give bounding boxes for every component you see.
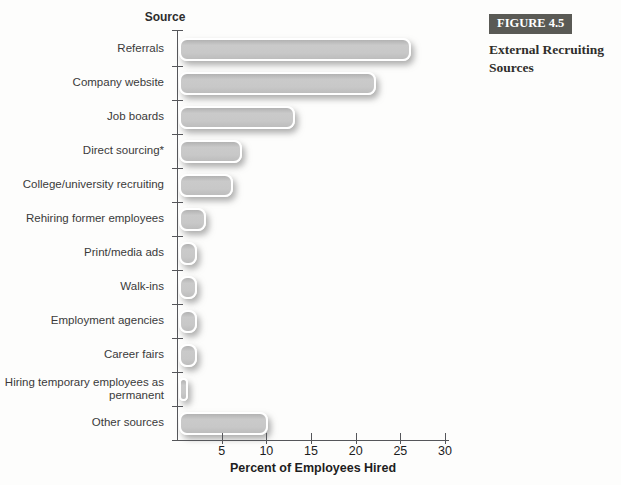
category-label: College/university recruiting: [0, 178, 171, 191]
bar: [179, 310, 197, 333]
x-tick-label: 10: [251, 444, 281, 458]
bar-row: Career fairs: [0, 338, 480, 372]
y-tick: [172, 134, 183, 135]
category-label: Referrals: [0, 42, 171, 55]
x-tick: [266, 433, 267, 444]
bar-track: [171, 236, 480, 270]
bar-row: Other sources: [0, 406, 480, 440]
bar: [179, 140, 242, 163]
category-label: Job boards: [0, 110, 171, 123]
category-label: Walk-ins: [0, 280, 171, 293]
y-tick: [172, 202, 183, 203]
bar-track: [171, 270, 480, 304]
y-tick: [172, 372, 183, 373]
y-tick: [172, 270, 183, 271]
bar-row: Walk-ins: [0, 270, 480, 304]
y-tick: [172, 100, 183, 101]
bar-track: [171, 202, 480, 236]
bar-track: [171, 304, 480, 338]
x-tick-label: 15: [296, 444, 326, 458]
bar-track: [171, 168, 480, 202]
bar-row: Hiring temporary employees as permanent: [0, 372, 480, 406]
x-tick: [445, 433, 446, 444]
bar: [179, 72, 376, 95]
y-tick: [172, 66, 183, 67]
category-label: Company website: [0, 76, 171, 89]
bar-row: Direct sourcing*: [0, 134, 480, 168]
y-tick: [172, 168, 183, 169]
figure-page: Source FIGURE 4.5 External Recruiting So…: [0, 0, 621, 485]
bar: [179, 412, 268, 435]
x-tick: [356, 433, 357, 444]
x-tick: [222, 433, 223, 444]
category-label: Print/media ads: [0, 246, 171, 259]
bar-track: [171, 372, 480, 406]
x-tick: [400, 433, 401, 444]
bar-track: [171, 100, 480, 134]
y-tick: [172, 304, 183, 305]
bar-rows: ReferralsCompany websiteJob boardsDirect…: [0, 32, 480, 440]
y-axis-line: [177, 30, 178, 440]
category-label: Hiring temporary employees as permanent: [0, 376, 171, 402]
bar: [179, 174, 233, 197]
x-tick-label: 5: [207, 444, 237, 458]
y-tick: [172, 236, 183, 237]
bar-track: [171, 134, 480, 168]
x-tick-label: 25: [385, 444, 415, 458]
bar: [179, 208, 206, 231]
bar-track: [171, 66, 480, 100]
y-tick: [172, 338, 183, 339]
y-tick: [172, 30, 183, 31]
x-tick: [311, 433, 312, 444]
bar-track: [171, 32, 480, 66]
bar-chart: ReferralsCompany websiteJob boardsDirect…: [0, 0, 621, 485]
x-tick-label: 20: [341, 444, 371, 458]
bar-row: Rehiring former employees: [0, 202, 480, 236]
bar-row: Company website: [0, 66, 480, 100]
bar-row: Print/media ads: [0, 236, 480, 270]
category-label: Career fairs: [0, 348, 171, 361]
bar-track: [171, 406, 480, 440]
bar-track: [171, 338, 480, 372]
bar-row: Job boards: [0, 100, 480, 134]
bar-row: Referrals: [0, 32, 480, 66]
bar-row: Employment agencies: [0, 304, 480, 338]
bar: [179, 378, 188, 401]
y-tick: [172, 406, 183, 407]
category-label: Rehiring former employees: [0, 212, 171, 225]
x-tick-label: 30: [430, 444, 460, 458]
bar: [179, 38, 411, 61]
bar: [179, 242, 197, 265]
x-axis-title: Percent of Employees Hired: [177, 461, 449, 475]
category-label: Direct sourcing*: [0, 144, 171, 157]
bar: [179, 344, 197, 367]
category-label: Other sources: [0, 416, 171, 429]
category-label: Employment agencies: [0, 314, 171, 327]
bar: [179, 106, 295, 129]
bar: [179, 276, 197, 299]
bar-row: College/university recruiting: [0, 168, 480, 202]
